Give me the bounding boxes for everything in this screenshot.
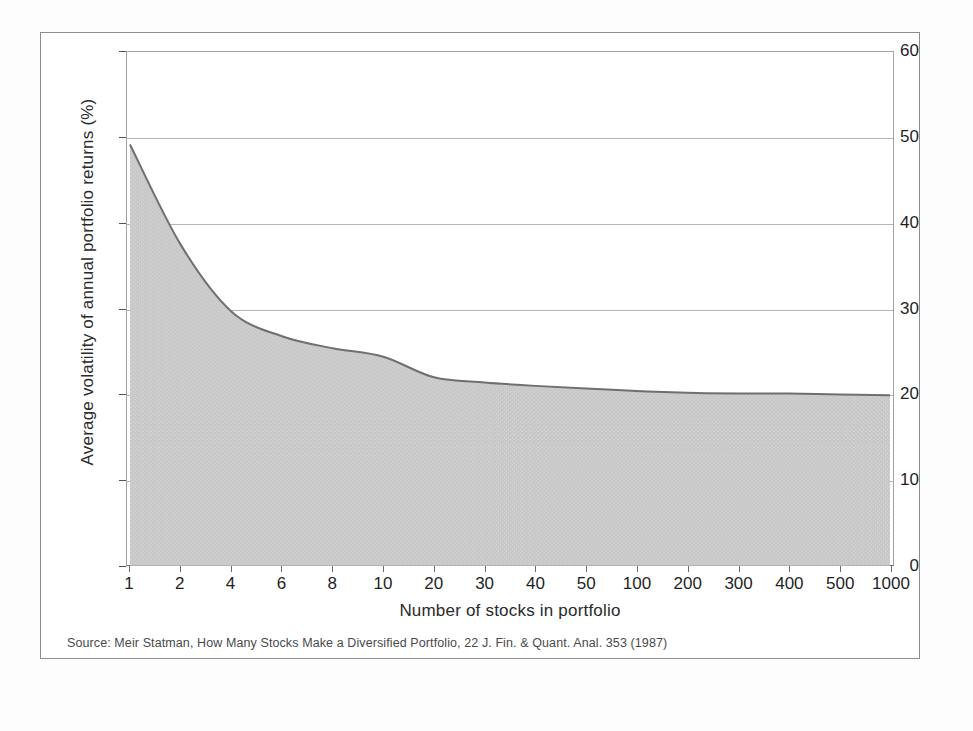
x-axis-tick-mark <box>383 566 384 572</box>
y-axis-tick-mark <box>119 480 126 481</box>
x-axis-tick-label: 500 <box>826 574 854 594</box>
x-axis-tick-mark <box>485 566 486 572</box>
y-axis-title: Average volatility of annual portfolio r… <box>78 27 98 537</box>
x-axis-tick-label: 20 <box>424 574 443 594</box>
y-axis-tick-mark <box>119 223 126 224</box>
chart-screenshot: Average volatility of annual portfolio r… <box>0 0 973 731</box>
x-axis-title: Number of stocks in portfolio <box>126 601 894 621</box>
area-fill <box>130 144 890 565</box>
x-axis-tick-label: 6 <box>277 574 286 594</box>
area-series-path <box>127 52 893 566</box>
x-axis-tick-label: 100 <box>623 574 651 594</box>
x-axis-tick-label: 30 <box>475 574 494 594</box>
x-axis-tick-label: 40 <box>526 574 545 594</box>
y-axis-tick-mark <box>119 394 126 395</box>
x-axis-tick-label: 2 <box>175 574 184 594</box>
x-axis-tick-label: 1000 <box>872 574 910 594</box>
y-axis-tick-mark <box>119 566 126 567</box>
x-axis-tick-label: 8 <box>327 574 336 594</box>
x-axis-tick-mark <box>434 566 435 572</box>
x-axis-tick-mark <box>789 566 790 572</box>
y-axis-tick-mark <box>119 137 126 138</box>
x-axis-tick-label: 4 <box>226 574 235 594</box>
x-axis-tick-mark <box>332 566 333 572</box>
x-axis-tick-mark <box>180 566 181 572</box>
source-note: Source: Meir Statman, How Many Stocks Ma… <box>67 636 667 650</box>
plot-area <box>126 51 894 566</box>
x-axis-tick-label: 50 <box>577 574 596 594</box>
x-axis-tick-mark <box>891 566 892 572</box>
x-axis-tick-label: 1 <box>124 574 133 594</box>
x-axis-tick-label: 10 <box>374 574 393 594</box>
x-axis-tick-mark <box>688 566 689 572</box>
x-axis-tick-mark <box>231 566 232 572</box>
x-axis-tick-label: 300 <box>724 574 752 594</box>
x-axis-tick-mark <box>586 566 587 572</box>
figure-frame: Average volatility of annual portfolio r… <box>40 32 920 659</box>
x-axis-tick-mark <box>637 566 638 572</box>
x-axis-tick-mark <box>129 566 130 572</box>
x-axis-tick-mark <box>739 566 740 572</box>
y-axis-tick-mark <box>119 51 126 52</box>
y-axis-tick-mark <box>119 309 126 310</box>
x-axis-tick-label: 200 <box>674 574 702 594</box>
x-axis-tick-label: 400 <box>775 574 803 594</box>
x-axis-tick-mark <box>281 566 282 572</box>
x-axis-tick-mark <box>840 566 841 572</box>
x-axis-tick-mark <box>535 566 536 572</box>
